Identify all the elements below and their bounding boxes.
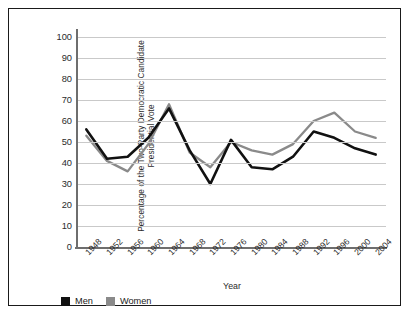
y-tick-label-60: 60 <box>46 116 72 126</box>
series-line-men <box>86 108 375 184</box>
gridline-50 <box>76 142 386 143</box>
y-tick-label-20: 20 <box>46 200 72 210</box>
legend-item-women: Women <box>106 296 152 306</box>
legend-label-men: Men <box>75 296 93 306</box>
chart-figure: Percentage of the Two-Party Democratic C… <box>8 8 401 306</box>
gridline-20 <box>76 205 386 206</box>
gridline-100 <box>76 37 386 38</box>
gridline-90 <box>76 58 386 59</box>
legend-item-men: Men <box>61 296 93 306</box>
legend-swatch-men <box>61 297 70 306</box>
legend-swatch-women <box>106 297 115 306</box>
chart-legend: MenWomen <box>61 296 151 306</box>
gridline-70 <box>76 100 386 101</box>
y-tick-label-40: 40 <box>46 158 72 168</box>
gridline-40 <box>76 163 386 164</box>
y-tick-label-80: 80 <box>46 74 72 84</box>
gridline-30 <box>76 184 386 185</box>
y-tick-label-70: 70 <box>46 95 72 105</box>
y-tick-label-10: 10 <box>46 221 72 231</box>
y-tick-label-90: 90 <box>46 53 72 63</box>
y-axis-tick-labels: 0102030405060708090100 <box>44 29 72 248</box>
y-tick-label-50: 50 <box>46 137 72 147</box>
gridline-80 <box>76 79 386 80</box>
plot-area <box>76 29 386 247</box>
y-tick-label-30: 30 <box>46 179 72 189</box>
y-tick-label-100: 100 <box>46 32 72 42</box>
gridline-10 <box>76 226 386 227</box>
y-axis-line <box>76 29 78 248</box>
plot-inner <box>76 37 386 247</box>
y-axis-title: Percentage of the Two-Party Democratic C… <box>11 17 41 255</box>
legend-label-women: Women <box>120 296 152 306</box>
y-tick-label-0: 0 <box>46 242 72 252</box>
x-axis-title: Year <box>76 281 388 291</box>
gridline-60 <box>76 121 386 122</box>
